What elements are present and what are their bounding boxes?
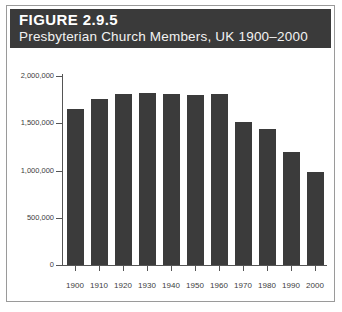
bar xyxy=(91,99,108,265)
chart-plot-area: 0500,0001,000,0001,500,0002,000,000 1900… xyxy=(0,0,342,312)
y-tick-mark xyxy=(56,218,63,219)
x-tick-mark xyxy=(219,266,220,271)
x-tick-mark xyxy=(147,266,148,271)
y-tick-mark xyxy=(56,76,63,77)
bar xyxy=(211,94,228,265)
y-axis-line xyxy=(62,74,63,266)
y-tick-mark xyxy=(56,265,63,266)
bar xyxy=(283,152,300,265)
x-tick-mark xyxy=(243,266,244,271)
y-tick-label: 1,000,000 xyxy=(0,166,54,175)
bar xyxy=(139,93,156,265)
y-tick-label: 1,500,000 xyxy=(0,118,54,127)
x-tick-mark xyxy=(291,266,292,271)
x-tick-label: 2000 xyxy=(300,281,330,290)
bar xyxy=(115,94,132,265)
y-tick-label: 2,000,000 xyxy=(0,71,54,80)
x-tick-mark xyxy=(267,266,268,271)
x-tick-mark xyxy=(123,266,124,271)
x-tick-mark xyxy=(195,266,196,271)
y-tick-label: 500,000 xyxy=(0,213,54,222)
bar xyxy=(235,122,252,265)
x-tick-mark xyxy=(75,266,76,271)
figure-root: FIGURE 2.9.5 Presbyterian Church Members… xyxy=(0,0,342,312)
bar xyxy=(163,94,180,265)
x-tick-mark xyxy=(315,266,316,271)
x-tick-mark xyxy=(171,266,172,271)
y-tick-mark xyxy=(56,171,63,172)
bar xyxy=(187,95,204,265)
bar xyxy=(307,172,324,265)
y-tick-label: 0 xyxy=(0,260,54,269)
x-tick-mark xyxy=(99,266,100,271)
bar xyxy=(67,109,84,265)
bar xyxy=(259,129,276,265)
y-tick-mark xyxy=(56,123,63,124)
